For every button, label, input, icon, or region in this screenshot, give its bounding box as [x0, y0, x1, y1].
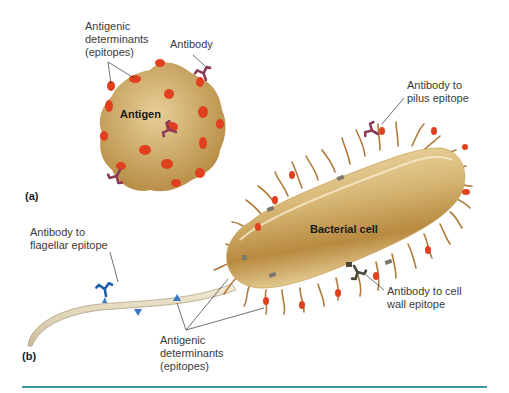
antigen-epitope-diagram: Antigenic determinants (epitopes) Antibo… — [0, 0, 509, 393]
pilus-antibody-label: Antibody to pilus epitope — [407, 79, 469, 104]
bacterial-cell-label: Bacterial cell — [310, 223, 378, 235]
antibody-label: Antibody — [170, 38, 213, 50]
flagellar-antibody-label: Antibody to flagellar epitope — [30, 226, 108, 251]
panel-a-label: (a) — [25, 190, 39, 202]
antigen-label: Antigen — [120, 108, 161, 120]
flagellar-antibody-icon — [96, 283, 114, 298]
panel-b: Antibody to pilus epitope Antibody to fl… — [22, 79, 472, 372]
epitope-label-b: Antigenic determinants (epitopes) — [160, 334, 227, 372]
bottom-divider — [22, 386, 487, 388]
cell-wall-antibody-label: Antibody to cell wall epitope — [386, 285, 465, 310]
epitope-label-a: Antigenic determinants (epitopes) — [85, 20, 152, 58]
panel-a: Antigenic determinants (epitopes) Antibo… — [25, 20, 226, 202]
cell-wall-antibody-icon — [346, 262, 367, 280]
panel-b-label: (b) — [22, 350, 36, 362]
bacterial-cell — [227, 148, 465, 288]
